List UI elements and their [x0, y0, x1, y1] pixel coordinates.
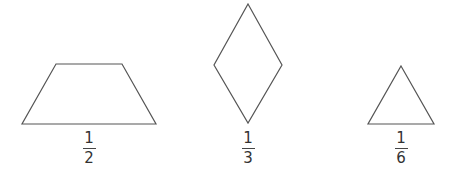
fraction-denominator: 3 — [236, 151, 260, 166]
triangle-shape — [368, 66, 434, 124]
triangle-fraction: 1 6 — [389, 131, 413, 166]
trapezoid-fraction: 1 2 — [77, 131, 101, 166]
fraction-denominator: 6 — [389, 151, 413, 166]
fraction-numerator: 1 — [389, 131, 413, 146]
rhombus-fraction: 1 3 — [236, 131, 260, 166]
fraction-numerator: 1 — [77, 131, 101, 146]
trapezoid-shape — [22, 64, 156, 124]
rhombus-shape — [214, 4, 282, 123]
fraction-denominator: 2 — [77, 151, 101, 166]
fraction-numerator: 1 — [236, 131, 260, 146]
